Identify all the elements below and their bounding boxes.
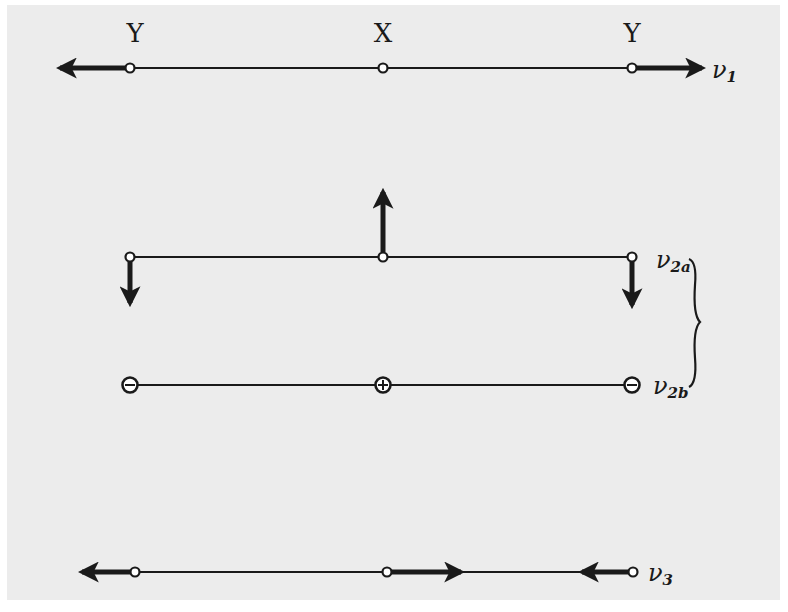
mode-v3: ν3 [82, 559, 673, 589]
vibration-modes-diagram: Y X Y ν1 ν2a [0, 0, 788, 612]
mode-label-v2a: ν2a [656, 246, 691, 276]
mode-v2b: ν2b [123, 372, 689, 402]
minus-circle-icon [625, 378, 640, 393]
mode-v2a: ν2a [126, 192, 691, 305]
mode-label-v2b: ν2b [653, 372, 689, 402]
atom-label-y-left: Y [125, 18, 144, 48]
atom-node-y-left [126, 64, 135, 73]
atom-node-x [383, 568, 392, 577]
minus-circle-icon [123, 378, 138, 393]
mode-label-v3: ν3 [648, 559, 673, 589]
atom-node-y-right [629, 568, 638, 577]
atom-node-x [379, 253, 388, 262]
mode-label-v1: ν1 [712, 56, 737, 86]
atom-node-y-right [628, 64, 637, 73]
atom-node-y-left [131, 568, 140, 577]
right-brace-icon [689, 259, 700, 387]
atom-label-y-right: Y [622, 18, 641, 48]
atom-label-x: X [374, 18, 393, 48]
atom-node-x [379, 64, 388, 73]
atom-labels: Y X Y [125, 18, 641, 48]
plus-circle-icon [376, 378, 391, 393]
atom-node-y-left [126, 253, 135, 262]
mode-v1: ν1 [60, 56, 737, 86]
atom-node-y-right [628, 253, 637, 262]
